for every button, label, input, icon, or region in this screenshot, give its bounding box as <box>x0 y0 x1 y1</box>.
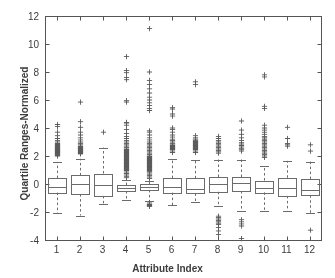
x-tick-label: 10 <box>258 244 269 255</box>
x-tick-label: 1 <box>54 244 60 255</box>
x-tick-label: 7 <box>192 244 198 255</box>
x-tick-label: 6 <box>169 244 175 255</box>
x-tick-label: 11 <box>281 244 291 255</box>
x-tick-label: 4 <box>123 244 129 255</box>
x-tick-label: 2 <box>77 244 83 255</box>
y-tick-label: -4 <box>8 235 39 246</box>
x-tick-label: 5 <box>146 244 152 255</box>
x-tick-label: 8 <box>215 244 221 255</box>
x-tick-label: 9 <box>238 244 244 255</box>
boxplot-canvas <box>0 0 335 278</box>
y-tick-label: 10 <box>8 39 39 50</box>
boxplot-figure: 121086420-2-4 123456789101112 Attribute … <box>0 0 335 278</box>
y-axis-label: Quartile Ranges-Normalized <box>19 64 30 204</box>
y-tick-label: 12 <box>8 11 39 22</box>
x-tick-label: 3 <box>100 244 106 255</box>
y-tick-label: -2 <box>8 207 39 218</box>
x-axis-label: Attribute Index <box>0 263 335 274</box>
x-tick-label: 12 <box>304 244 315 255</box>
